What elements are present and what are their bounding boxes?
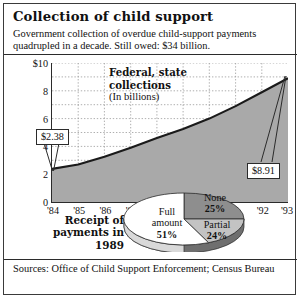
pie-label-partial: Partial 24% xyxy=(192,219,242,242)
pie-chart: Full amount 51% None 25% Partial 24% xyxy=(122,186,246,252)
infographic-frame: Collection of child support Government c… xyxy=(3,3,296,295)
pie-label-full-line-2: amount xyxy=(152,217,183,228)
callout-end-value: $8.91 xyxy=(247,163,280,179)
x-tick-label-92: '92 xyxy=(257,205,269,216)
subtitle-text: Government collection of overdue child-s… xyxy=(13,28,291,53)
pie-label-full: Full amount 51% xyxy=(139,206,195,240)
callout-start-value: $2.38 xyxy=(36,129,69,145)
pie-label-full-value: 51% xyxy=(157,229,177,240)
pie-label-none: None 25% xyxy=(192,192,238,215)
chart-legend: Federal, state collections (In billions) xyxy=(109,66,187,104)
pie-caption-line-1: Receipt of xyxy=(22,214,124,226)
pie-label-partial-line-1: Partial xyxy=(204,219,231,230)
pie-caption-line-2: payments in 1989 xyxy=(22,226,124,251)
y-tick-label-10: $10 xyxy=(33,58,48,69)
page-title: Collection of child support xyxy=(13,9,283,24)
legend-units: (In billions) xyxy=(109,91,187,104)
pie-caption: Receipt of payments in 1989 xyxy=(22,214,124,251)
y-tick-label-6: 6 xyxy=(43,113,48,124)
sources-text: Sources: Office of Child Support Enforce… xyxy=(13,263,283,275)
area-chart: $10 8 6 4 2 0 xyxy=(4,55,297,252)
pie-label-none-line-1: None xyxy=(204,192,226,203)
legend-line-2: collections xyxy=(109,79,187,92)
x-tick-label-93: '93 xyxy=(281,205,293,216)
y-tick-label-8: 8 xyxy=(43,85,48,96)
pie-label-partial-value: 24% xyxy=(207,230,227,241)
footer-divider xyxy=(4,259,297,260)
legend-line-1: Federal, state xyxy=(109,66,187,79)
pie-label-none-value: 25% xyxy=(205,203,225,214)
y-tick-label-2: 2 xyxy=(43,169,48,180)
pie-label-full-line-1: Full xyxy=(159,206,175,217)
